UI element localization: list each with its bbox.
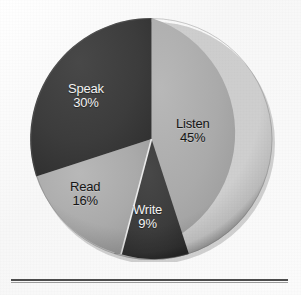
pie-label-read-value: 16% <box>70 194 100 208</box>
pie-label-read-name: Read <box>70 180 100 194</box>
horizontal-rule-thick <box>11 279 288 281</box>
pie-label-listen-value: 45% <box>176 131 210 145</box>
pie-label-write: Write 9% <box>133 203 162 231</box>
horizontal-rule-thin <box>11 282 288 283</box>
page-root: Listen 45% Speak 30% Read 16% Write 9% <box>0 0 301 295</box>
pie-label-speak-name: Speak <box>68 82 104 96</box>
pie-chart: Listen 45% Speak 30% Read 16% Write 9% <box>0 0 301 262</box>
pie-label-speak: Speak 30% <box>68 82 104 110</box>
pie-label-listen: Listen 45% <box>176 117 210 145</box>
pie-label-listen-name: Listen <box>176 117 210 131</box>
horizontal-rule <box>11 279 288 283</box>
pie-label-read: Read 16% <box>70 180 100 208</box>
pie-label-write-name: Write <box>133 203 162 217</box>
pie-label-speak-value: 30% <box>68 96 104 110</box>
pie-label-write-value: 9% <box>133 217 162 231</box>
